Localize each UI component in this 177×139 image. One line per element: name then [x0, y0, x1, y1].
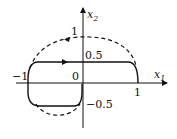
tick-x-neg-one: −1 [12, 70, 28, 83]
arrow-right-icon [62, 59, 68, 65]
arrow-left-icon [64, 37, 70, 42]
tick-origin: 0 [72, 70, 79, 83]
tick-y-half: 0.5 [85, 49, 103, 62]
tick-y-one: 1 [71, 25, 78, 38]
tick-y-neg-half: −0.5 [86, 98, 113, 111]
x1-label: x1 [154, 68, 165, 83]
tick-x-pos-one: 1 [134, 86, 141, 99]
phase-diagram: x1 x2 0 1 −1 1 0.5 −0.5 [0, 0, 177, 139]
x2-label: x2 [87, 8, 98, 23]
